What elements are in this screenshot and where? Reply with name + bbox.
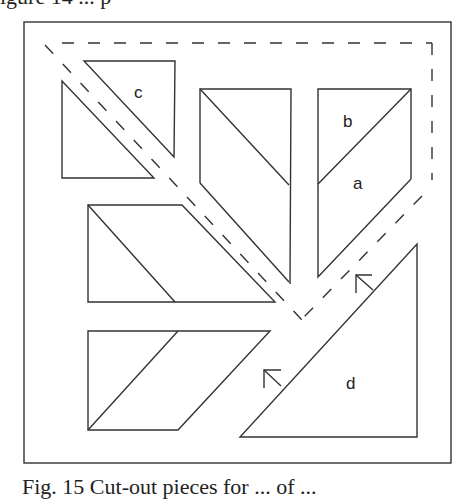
label-b: b <box>343 112 352 131</box>
dashed-cut-line <box>45 43 432 320</box>
figure-caption: Fig. 15 Cut-out pieces for ... of ... <box>22 476 317 498</box>
piece-left-middle <box>88 205 275 302</box>
piece-middle-top <box>200 89 291 284</box>
piece-c <box>84 61 175 157</box>
label-d: d <box>346 374 355 393</box>
arrow-icon <box>264 370 281 388</box>
arrow-icon <box>356 275 373 293</box>
label-a: a <box>353 174 363 193</box>
piece-bottom-left <box>88 331 270 430</box>
piece-d <box>240 244 417 437</box>
label-c: c <box>134 83 143 102</box>
piece-a-b <box>318 89 411 277</box>
